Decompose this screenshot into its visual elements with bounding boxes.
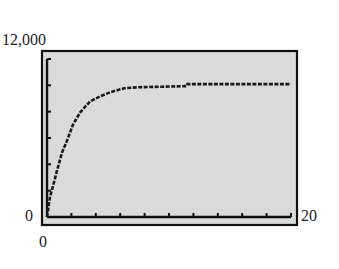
- plot-background: [42, 51, 297, 225]
- calculator-graph-window: [0, 0, 339, 269]
